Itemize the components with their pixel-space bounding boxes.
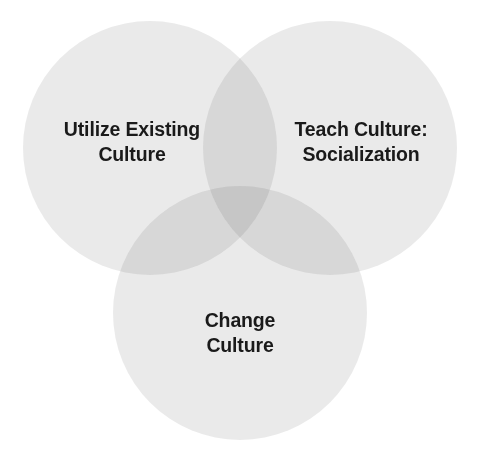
venn-circles-graphic — [0, 0, 482, 466]
venn-diagram: Utilize Existing Culture Teach Culture: … — [0, 0, 482, 466]
venn-circle-change-culture[interactable] — [113, 186, 367, 440]
